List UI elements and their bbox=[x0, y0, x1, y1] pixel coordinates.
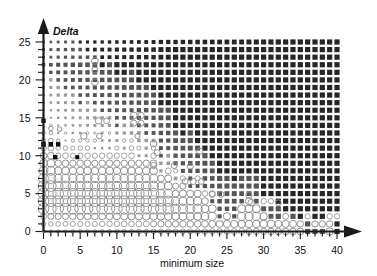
bubble-marker-filled bbox=[217, 85, 222, 90]
bubble-marker-open bbox=[165, 175, 172, 182]
bubble-marker-filled bbox=[188, 138, 193, 143]
bubble-marker-filled bbox=[268, 168, 273, 173]
bubble-marker-filled bbox=[115, 139, 118, 142]
x-axis-tick-labels: 0510152025303540 bbox=[41, 244, 343, 256]
bubble-marker-filled bbox=[159, 40, 163, 44]
bubble-marker-open bbox=[238, 220, 245, 227]
bubble-marker-filled bbox=[180, 108, 185, 113]
bubble-marker-filled bbox=[268, 146, 273, 151]
bubble-marker-filled bbox=[254, 92, 259, 97]
bubble-marker-filled bbox=[305, 191, 310, 196]
bubble-marker-filled bbox=[217, 55, 222, 60]
bubble-marker-filled bbox=[100, 48, 104, 52]
bubble-marker-filled bbox=[151, 47, 156, 52]
bubble-marker-open bbox=[92, 153, 97, 158]
bubble-marker-filled bbox=[239, 55, 244, 60]
bubble-marker-filled bbox=[312, 168, 317, 173]
bubble-marker-filled bbox=[195, 130, 200, 135]
x-axis-ticks bbox=[44, 233, 338, 240]
bubble-marker-open bbox=[78, 221, 83, 226]
bubble-marker-filled bbox=[188, 40, 192, 44]
bubble-marker-filled bbox=[261, 77, 266, 82]
bubble-marker-filled bbox=[64, 41, 67, 44]
bubble-marker-filled bbox=[151, 100, 156, 105]
bubble-marker-filled bbox=[210, 85, 215, 90]
bubble-marker-filled bbox=[144, 85, 149, 90]
bubble-marker-filled bbox=[290, 199, 295, 204]
bubble-marker-filled bbox=[246, 115, 251, 120]
bubble-marker-filled bbox=[108, 55, 112, 59]
bubble-marker-open bbox=[57, 124, 59, 126]
bubble-marker-filled bbox=[305, 70, 310, 75]
bubble-marker-filled bbox=[224, 100, 229, 105]
y-tick-label: 0 bbox=[25, 225, 31, 237]
bubble-marker-filled bbox=[268, 191, 273, 196]
bubble-marker-open bbox=[71, 139, 74, 142]
bubble-marker-filled bbox=[261, 146, 266, 151]
bubble-marker-open bbox=[108, 132, 111, 135]
bubble-marker-filled bbox=[320, 199, 325, 204]
bubble-marker-filled bbox=[173, 55, 178, 60]
bubble-marker-filled bbox=[269, 214, 274, 219]
bubble-marker-filled bbox=[217, 130, 222, 135]
bubble-marker-filled bbox=[261, 39, 266, 44]
bubble-marker-open bbox=[48, 222, 53, 227]
bubble-marker-filled bbox=[195, 77, 200, 82]
bubble-marker-open bbox=[289, 220, 296, 227]
bubble-marker-filled bbox=[320, 100, 325, 105]
bubble-marker-filled bbox=[122, 124, 126, 128]
bubble-marker-filled bbox=[283, 77, 288, 82]
bubble-marker-filled bbox=[224, 183, 229, 188]
bubble-marker-filled bbox=[327, 168, 332, 173]
bubble-marker-filled bbox=[202, 108, 207, 113]
bubble-marker-filled bbox=[305, 153, 310, 158]
bubble-marker-filled bbox=[232, 85, 237, 90]
bubble-marker-filled bbox=[158, 47, 163, 52]
bubble-marker-filled bbox=[166, 77, 171, 82]
bubble-marker-filled bbox=[254, 115, 259, 120]
bubble-marker-filled bbox=[71, 93, 74, 96]
bubble-marker-filled bbox=[129, 93, 134, 98]
bubble-marker-open bbox=[202, 198, 209, 205]
bubble-marker-filled bbox=[232, 207, 237, 212]
bubble-marker-filled bbox=[283, 183, 288, 188]
bubble-marker-open bbox=[95, 118, 102, 125]
bubble-marker-open bbox=[128, 167, 136, 175]
bubble-marker-filled bbox=[276, 183, 281, 188]
bubble-marker-open bbox=[56, 222, 61, 227]
bubble-marker-filled bbox=[246, 153, 251, 158]
x-tick-label: 0 bbox=[41, 244, 47, 256]
bubble-marker-filled bbox=[210, 146, 215, 151]
bubble-marker-filled bbox=[159, 138, 163, 142]
bubble-marker-open bbox=[130, 139, 134, 143]
bubble-marker-filled bbox=[334, 123, 339, 128]
bubble-marker-filled bbox=[158, 55, 163, 60]
bubble-marker-filled bbox=[298, 130, 303, 135]
bubble-marker-filled bbox=[312, 108, 317, 113]
bubble-marker-filled bbox=[86, 40, 89, 43]
bubble-marker-filled bbox=[217, 62, 222, 67]
bubble-marker-filled bbox=[210, 92, 215, 97]
bubble-marker-filled bbox=[276, 153, 281, 158]
bubble-marker-filled bbox=[283, 153, 288, 158]
bubble-marker-filled bbox=[239, 62, 244, 67]
bubble-marker-filled bbox=[86, 116, 89, 119]
bubble-marker-filled bbox=[327, 146, 332, 151]
bubble-marker-filled bbox=[334, 206, 339, 211]
bubble-marker-open bbox=[62, 167, 70, 175]
bubble-marker-filled bbox=[327, 70, 332, 75]
bubble-marker-filled bbox=[320, 146, 325, 151]
bubble-marker-filled bbox=[210, 176, 215, 181]
bubble-marker-filled bbox=[283, 146, 288, 151]
bubble-marker-filled bbox=[283, 85, 288, 90]
bubble-marker-filled bbox=[232, 62, 237, 67]
bubble-marker-filled bbox=[320, 138, 325, 143]
bubble-marker-filled bbox=[166, 100, 171, 105]
bubble-marker-filled bbox=[283, 115, 288, 120]
bubble-marker-filled bbox=[334, 176, 339, 181]
bubble-marker-filled bbox=[232, 168, 237, 173]
bubble-marker-filled bbox=[71, 41, 74, 44]
bubble-marker-open bbox=[49, 131, 53, 135]
bubble-marker-filled bbox=[210, 108, 215, 113]
bubble-marker-filled bbox=[173, 130, 178, 135]
